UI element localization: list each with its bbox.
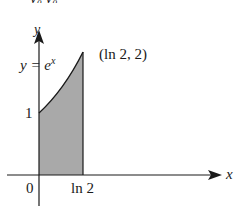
curve-label-exponent: x: [51, 55, 55, 66]
x-tick-ln2: ln 2: [71, 181, 94, 196]
figure: y₀ y₀ y x (ln 2, 2) y = ex 1 0 ln 2: [0, 0, 238, 218]
y-tick-1: 1: [25, 106, 33, 121]
x-tick-0: 0: [26, 181, 34, 196]
curve-label-text: y = e: [20, 57, 51, 73]
point-label: (ln 2, 2): [99, 47, 147, 62]
x-axis-label: x: [226, 167, 233, 182]
y-axis-label: y: [34, 23, 40, 37]
curve-label: y = ex: [20, 56, 55, 73]
clipped-header-text: y₀ y₀: [30, 0, 58, 3]
clipped-header: y₀ y₀: [0, 0, 238, 3]
